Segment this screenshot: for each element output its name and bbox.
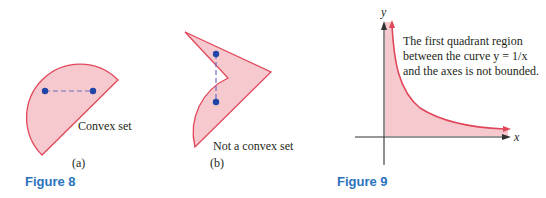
sublabel-a: (a) bbox=[72, 156, 85, 170]
point-icon bbox=[213, 51, 219, 57]
nonconvex-set-label: Not a convex set bbox=[213, 139, 294, 153]
annotation-line-2: between the curve y = 1/x bbox=[403, 49, 527, 63]
nonconvex-set-shape bbox=[185, 32, 271, 147]
annotation-line-1: The first quadrant region bbox=[403, 34, 523, 48]
point-icon bbox=[42, 88, 48, 94]
point-icon bbox=[213, 99, 219, 105]
sublabel-b: (b) bbox=[210, 156, 224, 170]
annotation-line-3: and the axes is not bounded. bbox=[403, 64, 539, 78]
convex-set-shape bbox=[27, 64, 118, 155]
x-axis-label: x bbox=[513, 130, 520, 144]
y-axis-label: y bbox=[380, 5, 387, 19]
point-icon bbox=[90, 88, 96, 94]
figure-9-caption: Figure 9 bbox=[337, 174, 388, 189]
figure-canvas: Convex set (a) Not a convex set (b) Figu… bbox=[0, 0, 546, 198]
figure-8-caption: Figure 8 bbox=[25, 174, 76, 189]
convex-set-label: Convex set bbox=[78, 119, 132, 133]
